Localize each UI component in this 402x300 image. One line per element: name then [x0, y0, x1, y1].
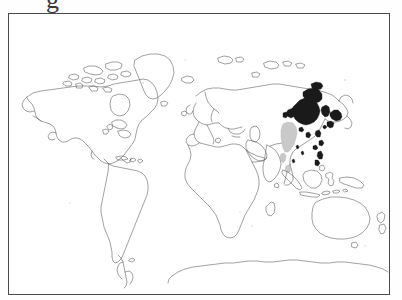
- figure-caption-partial: g: [46, 0, 60, 13]
- landmass-arctic-eurasia-islands: [218, 56, 305, 77]
- landmass-greenland: [134, 54, 174, 106]
- world-map-svg: [8, 13, 390, 295]
- caption-clip: g: [0, 0, 402, 13]
- landmass-north-america: [22, 79, 158, 164]
- landmass-africa: [185, 143, 275, 238]
- landmass-indonesia: [282, 165, 364, 197]
- landmass-australia: [312, 197, 386, 248]
- landmass-arctic-islands: [63, 62, 131, 92]
- landmass-south-america: [101, 156, 148, 263]
- distribution-region-light: [280, 122, 297, 173]
- map-frame-border: [8, 13, 390, 295]
- landmass-iceland: [182, 76, 194, 83]
- landmass-antarctica: [117, 255, 388, 288]
- figure-root: g: [0, 0, 402, 300]
